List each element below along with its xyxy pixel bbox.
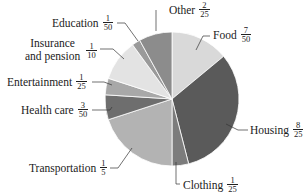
label-health-care-name: Health care <box>21 104 74 116</box>
label-transportation: Transportation15 <box>29 159 107 176</box>
leader-education <box>117 23 138 41</box>
label-education-name: Education <box>52 17 99 29</box>
label-transportation-name: Transportation <box>29 162 96 174</box>
label-entertainment: Entertainment125 <box>7 73 87 90</box>
label-clothing-name: Clothing <box>183 179 223 191</box>
label-clothing: Clothing125 <box>183 176 238 192</box>
label-food: Food750 <box>213 26 251 43</box>
fraction-food: 750 <box>241 26 252 43</box>
leader-transportation <box>110 148 132 168</box>
label-education: Education150 <box>52 14 113 31</box>
fraction-insurance: 110 <box>86 42 97 59</box>
fraction-housing: 825 <box>293 121 304 138</box>
label-entertainment-name: Entertainment <box>7 76 72 88</box>
pie-slices <box>105 32 239 166</box>
label-housing: Housing825 <box>250 121 303 138</box>
label-housing-name: Housing <box>250 124 289 136</box>
label-insurance-line2: and pension <box>25 50 80 63</box>
label-health-care: Health care350 <box>21 101 88 118</box>
fraction-entertainment: 125 <box>76 73 87 90</box>
label-insurance-and-pension: Insurance and pension 110 <box>25 37 97 63</box>
fraction-health-care: 350 <box>78 101 89 118</box>
label-insurance-line1: Insurance <box>25 37 80 50</box>
fraction-other: 225 <box>199 1 210 18</box>
label-other-name: Other <box>169 4 195 16</box>
fraction-transportation: 15 <box>100 159 106 176</box>
fraction-education: 150 <box>103 14 114 31</box>
label-other: Other225 <box>169 1 210 18</box>
fraction-clothing: 125 <box>227 176 238 192</box>
label-food-name: Food <box>213 29 237 41</box>
